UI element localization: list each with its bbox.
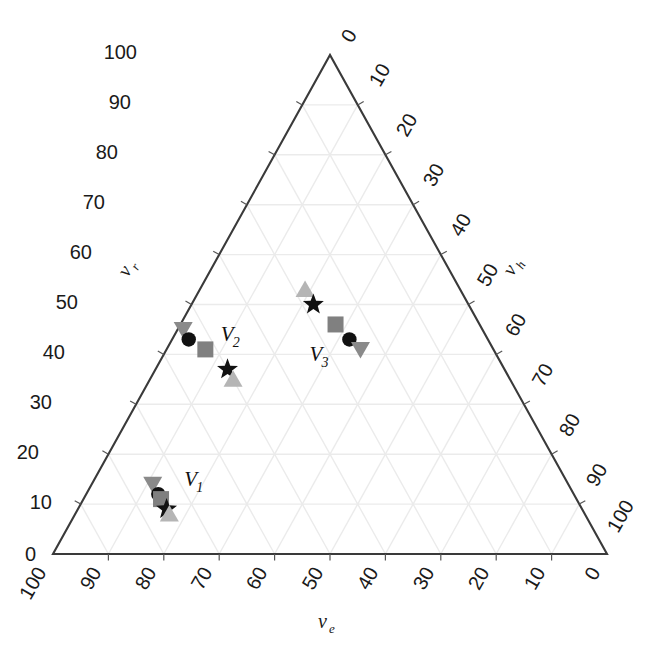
left-tick-text: 10: [30, 491, 52, 513]
bottom-axis-title-subscript: e: [329, 621, 335, 636]
left-tick-text: 50: [56, 291, 78, 313]
left-tick: 70: [83, 191, 105, 213]
left-tick-text: 60: [70, 241, 92, 263]
cluster-label-V1-subscript: 1: [196, 480, 203, 495]
left-tick: 0: [25, 543, 36, 565]
left-tick: 50: [56, 291, 78, 313]
left-tick: 30: [30, 391, 52, 413]
left-tick-text: 70: [83, 191, 105, 213]
left-tick: 80: [96, 141, 118, 163]
marker-square: [197, 341, 213, 357]
left-tick: 90: [109, 91, 131, 113]
bottom-axis-title-glyph: ν: [318, 610, 327, 632]
left-tick: 10: [30, 491, 52, 513]
left-tick-text: 100: [104, 41, 137, 63]
left-tick-text: 30: [30, 391, 52, 413]
ternary-plot-figure: 0102030405060708090100 01020304050607080…: [0, 0, 669, 663]
cluster-label-V2-subscript: 2: [233, 335, 240, 350]
marker-square: [328, 316, 344, 332]
marker-circle: [182, 332, 196, 346]
left-tick-text: 0: [25, 543, 36, 565]
left-tick-text: 80: [96, 141, 118, 163]
left-tick: 20: [17, 441, 39, 463]
cluster-label-V3-subscript: 3: [320, 355, 328, 370]
left-tick: 60: [70, 241, 92, 263]
left-tick-text: 40: [43, 341, 65, 363]
left-tick: 100: [104, 41, 137, 63]
left-tick-text: 90: [109, 91, 131, 113]
left-tick: 40: [43, 341, 65, 363]
left-tick-text: 20: [17, 441, 39, 463]
ternary-plot-canvas: 0102030405060708090100 01020304050607080…: [0, 0, 669, 663]
